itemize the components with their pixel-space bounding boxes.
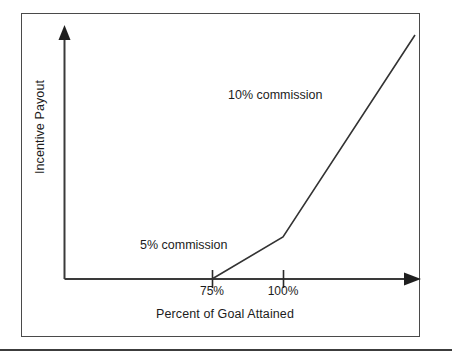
page-divider-rule <box>0 349 452 351</box>
x-axis-arrow-icon <box>404 273 421 286</box>
x-tick-label-75: 75% <box>186 284 238 298</box>
figure-root: Incentive Payout Percent of Goal Attaine… <box>0 0 452 362</box>
y-axis-label: Incentive Payout <box>33 47 47 207</box>
annotation-upper-segment: 10% commission <box>228 88 322 102</box>
payout-line-series <box>212 35 415 279</box>
x-axis-label: Percent of Goal Attained <box>60 307 390 321</box>
annotation-lower-segment: 5% commission <box>140 238 228 252</box>
y-axis-arrow-icon <box>59 25 71 40</box>
x-tick-label-100: 100% <box>254 284 312 298</box>
